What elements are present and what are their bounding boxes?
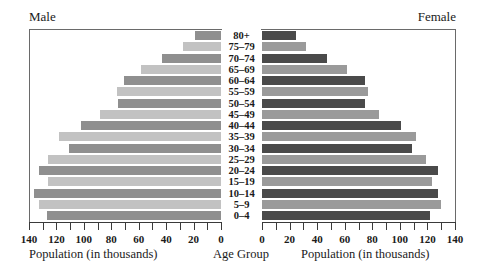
age-group-label: 25–29 [222, 154, 261, 165]
female-x-axis-tick [276, 222, 277, 230]
female-x-axis-tick-label: 40 [302, 233, 332, 245]
male-bar [162, 54, 221, 63]
age-group-label: 80+ [222, 30, 261, 41]
male-x-axis-tick-label: 40 [151, 233, 181, 245]
female-bar [262, 121, 401, 130]
age-group-label: 30–34 [222, 143, 261, 154]
male-x-axis-tick [125, 222, 126, 230]
female-x-axis-tick-label: 60 [330, 233, 360, 245]
age-group-label: 60–64 [222, 75, 261, 86]
female-x-axis-title: Population (in thousands) [301, 247, 429, 262]
female-bar [262, 87, 368, 96]
male-x-axis-tick [56, 222, 57, 230]
male-x-axis-tick [166, 222, 167, 230]
male-bar [47, 211, 221, 220]
age-group-label: 5–9 [222, 199, 261, 210]
female-x-axis-tick [386, 222, 387, 230]
male-x-axis-tick [152, 222, 153, 230]
male-bar [59, 132, 221, 141]
male-x-axis-tick [70, 222, 71, 230]
female-x-axis-tick-label: 120 [412, 233, 442, 245]
female-x-axis-tick [303, 222, 304, 230]
male-x-axis-tick [111, 222, 112, 230]
male-x-axis-tick-label: 100 [69, 233, 99, 245]
male-x-axis-tick-label: 60 [124, 233, 154, 245]
female-x-axis-tick [317, 222, 318, 230]
age-group-labels: 80+75–7970–7465–6960–6455–5950–5445–4940… [222, 29, 261, 222]
female-bar [262, 99, 365, 108]
male-x-axis-tick [194, 222, 195, 230]
male-x-axis-tick [221, 222, 222, 230]
female-bar [262, 189, 438, 198]
male-x-axis-tick [207, 222, 208, 230]
male-bar [118, 99, 221, 108]
male-x-axis-tick-label: 20 [179, 233, 209, 245]
age-group-label: 70–74 [222, 53, 261, 64]
female-x-axis-tick [455, 222, 456, 230]
female-panel-title: Female [418, 9, 456, 25]
female-x-axis-tick-label: 80 [357, 233, 387, 245]
age-group-label: 35–39 [222, 131, 261, 142]
female-bar [262, 110, 379, 119]
female-bar [262, 200, 441, 209]
female-x-axis-tick [414, 222, 415, 230]
female-x-axis-tick [441, 222, 442, 230]
male-bar [48, 155, 221, 164]
male-x-axis-tick [29, 222, 30, 230]
female-x-axis-tick [290, 222, 291, 230]
male-panel-title: Male [29, 9, 56, 25]
male-x-axis-tick-label: 140 [14, 233, 44, 245]
female-x-axis-tick [359, 222, 360, 230]
male-bar [39, 166, 221, 175]
male-bar [124, 76, 221, 85]
female-bar [262, 76, 365, 85]
age-group-label: 55–59 [222, 86, 261, 97]
female-bar [262, 54, 327, 63]
female-bar [262, 31, 296, 40]
male-bar [141, 65, 221, 74]
male-bar [100, 110, 221, 119]
female-x-axis-tick-label: 100 [385, 233, 415, 245]
age-group-label: 45–49 [222, 109, 261, 120]
center-axis-title: Age Group [213, 247, 269, 262]
male-x-axis-tick [180, 222, 181, 230]
age-group-label: 10–14 [222, 188, 261, 199]
female-x-axis-tick-label: 20 [275, 233, 305, 245]
male-x-axis-tick [139, 222, 140, 230]
female-x-axis-tick [345, 222, 346, 230]
male-bar [81, 121, 221, 130]
male-x-axis-tick [98, 222, 99, 230]
male-bar [34, 189, 221, 198]
female-x-axis-tick [427, 222, 428, 230]
age-group-label: 15–19 [222, 176, 261, 187]
age-group-label: 75–79 [222, 41, 261, 52]
male-x-axis-title: Population (in thousands) [29, 247, 157, 262]
female-bar [262, 177, 432, 186]
male-x-axis-tick-label: 0 [206, 233, 236, 245]
female-bar [262, 144, 412, 153]
male-x-axis-tick [43, 222, 44, 230]
male-bar [117, 87, 221, 96]
female-bar [262, 42, 306, 51]
age-group-label: 50–54 [222, 98, 261, 109]
female-x-axis-tick [372, 222, 373, 230]
age-group-label: 65–69 [222, 64, 261, 75]
male-x-axis-tick-label: 80 [96, 233, 126, 245]
female-bar [262, 211, 430, 220]
female-bar [262, 132, 416, 141]
male-bar [48, 177, 221, 186]
male-bar [195, 31, 221, 40]
male-x-axis-tick-label: 120 [41, 233, 71, 245]
age-group-label: 20–24 [222, 165, 261, 176]
female-x-axis-tick-label: 0 [247, 233, 277, 245]
male-bar [183, 42, 221, 51]
age-group-label: 40–44 [222, 120, 261, 131]
female-bar [262, 166, 438, 175]
male-x-axis-tick [84, 222, 85, 230]
female-x-axis-tick [400, 222, 401, 230]
age-group-label: 0–4 [222, 210, 261, 221]
female-x-axis-tick-label: 140 [440, 233, 470, 245]
female-bar [262, 155, 426, 164]
female-bar [262, 65, 347, 74]
female-x-axis-tick [262, 222, 263, 230]
